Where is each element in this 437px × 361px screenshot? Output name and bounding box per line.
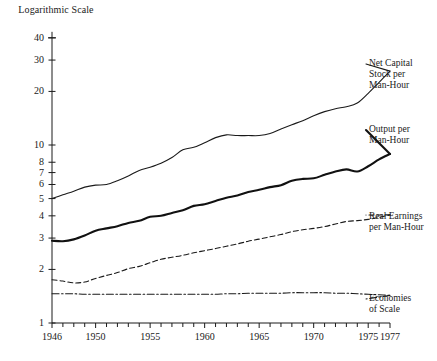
x-tick-label: 1977 — [370, 332, 410, 342]
series-line-0 — [52, 71, 390, 198]
y-tick-label: 8 — [18, 157, 44, 167]
y-tick-label: 2 — [18, 264, 44, 274]
x-tick-label: 1970 — [294, 332, 334, 342]
series-line-1 — [52, 154, 390, 241]
series-label-economies-of-scale: Economies of Scale — [369, 293, 435, 315]
series-label-output-per-man-hour: Output per Man-Hour — [369, 124, 435, 146]
y-tick-label: 5 — [18, 194, 44, 204]
series-line-3 — [52, 293, 390, 296]
x-tick-label: 1955 — [130, 332, 170, 342]
x-tick-label: 1950 — [76, 332, 116, 342]
series-line-2 — [52, 215, 390, 283]
axes-group — [48, 32, 390, 328]
y-tick-label: 6 — [18, 179, 44, 189]
x-tick-label: 1960 — [185, 332, 225, 342]
series-label-net-capital-stock: Net Capital Stock per Man-Hour — [369, 58, 435, 91]
y-tick-label: 40 — [18, 33, 44, 43]
series-label-real-earnings: Real Earnings per Man-Hour — [369, 211, 437, 233]
y-tick-label: 3 — [18, 233, 44, 243]
y-tick-label: 4 — [18, 211, 44, 221]
y-tick-label: 7 — [18, 168, 44, 178]
y-tick-label: 20 — [18, 86, 44, 96]
series-group — [52, 64, 390, 299]
y-tick-label: 10 — [18, 140, 44, 150]
chart-container: Logarithmic Scale 1234567810203040 19461… — [0, 0, 437, 361]
y-tick-label: 1 — [18, 318, 44, 328]
x-tick-label: 1946 — [32, 332, 72, 342]
y-tick-label: 30 — [18, 55, 44, 65]
x-tick-label: 1965 — [239, 332, 279, 342]
